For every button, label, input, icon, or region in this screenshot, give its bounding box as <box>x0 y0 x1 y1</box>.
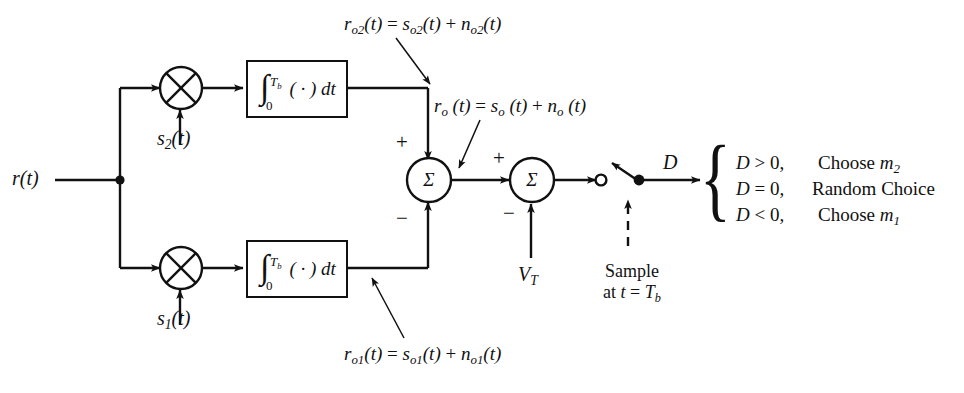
summer-two-symbol: Σ <box>510 158 554 202</box>
integral-lower-limit-lower: 0 <box>266 278 273 294</box>
reference-signal-label-lower: s1(t) <box>157 308 190 332</box>
switch-pivot-dot <box>634 175 645 186</box>
sample-control-label: Sample at t = Tb <box>588 262 676 304</box>
decision-row-1-action: Random Choice <box>812 178 935 200</box>
decision-row-0-condition: D > 0, <box>736 152 784 174</box>
integral-upper-limit-sub-lower: b <box>277 261 281 271</box>
threshold-voltage-label: VT <box>518 264 538 288</box>
decision-brace: { <box>700 133 731 226</box>
integrator-lower: ∫( · ) dt Tb 0 <box>246 240 348 298</box>
decision-row-1-condition: D = 0, <box>736 178 784 200</box>
summer-two-plus-sign: + <box>493 148 505 169</box>
decision-row-2-condition: D < 0, <box>736 204 784 226</box>
integrand-upper: ( · ) <box>289 78 316 99</box>
integrator-upper: ∫( · ) dt Tb 0 <box>246 60 348 118</box>
lower-branch-output-annotation: ro1(t) = so1(t) + no1(t) <box>344 344 501 366</box>
input-junction-dot <box>115 175 124 184</box>
summer-one-minus-sign: − <box>396 208 408 229</box>
summer-one: Σ <box>407 158 451 202</box>
reference-signal-label-upper: s2(t) <box>157 128 190 152</box>
sample-label-line2: at t = Tb <box>588 283 676 305</box>
block-diagram-canvas: ∫( · ) dt Tb 0 ∫( · ) dt Tb 0 Σ Σ + − + … <box>0 0 964 393</box>
input-signal-label: r(t) <box>12 168 39 189</box>
summer-two-minus-sign: − <box>503 203 515 224</box>
combined-output-annotation: ro (t) = so (t) + no (t) <box>434 96 586 118</box>
upper-branch-output-annotation: ro2(t) = so2(t) + no2(t) <box>344 14 501 36</box>
integral-lower-limit-upper: 0 <box>266 98 273 114</box>
summer-one-plus-sign: + <box>396 132 408 153</box>
integrand-lower: ( · ) <box>289 258 316 279</box>
sample-label-line1: Sample <box>588 262 676 281</box>
differential-lower: dt <box>321 258 336 279</box>
switch-terminal-circle <box>596 175 607 186</box>
decision-row-2-action: Choose m1 <box>818 204 900 229</box>
decision-row-0-action: Choose m2 <box>818 152 900 177</box>
summer-one-symbol: Σ <box>407 158 451 202</box>
integral-upper-limit-sub-upper: b <box>277 81 281 91</box>
decision-variable-label: D <box>663 152 677 173</box>
differential-upper: dt <box>321 78 336 99</box>
summer-two: Σ <box>510 158 554 202</box>
